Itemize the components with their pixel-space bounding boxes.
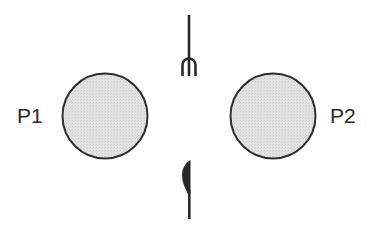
player-label-p1: P1 — [17, 105, 43, 126]
diagram-canvas: P1 P2 — [0, 0, 377, 227]
plate-p2 — [231, 74, 316, 159]
fork-icon — [183, 15, 196, 76]
player-label-p2: P2 — [330, 105, 356, 126]
plate-p1 — [63, 74, 148, 159]
diagram-svg — [0, 0, 377, 227]
knife-icon — [182, 160, 191, 219]
